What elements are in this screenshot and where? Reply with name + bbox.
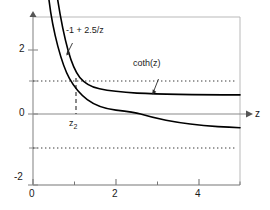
x-tick-label-0: 0 xyxy=(29,188,35,199)
plot-frame xyxy=(33,17,240,185)
y-tick-label-0: 0 xyxy=(19,107,25,118)
x-major-ticks xyxy=(33,179,199,185)
y-axis-arrowhead xyxy=(30,11,37,17)
x-axis-label: z xyxy=(255,108,260,119)
curve-coth xyxy=(57,0,240,95)
x-axis-arrowhead xyxy=(246,111,253,118)
chart-plot-area xyxy=(0,0,270,210)
figure-canvas: 2 0 -2 0 2 4 z -1 + 2.5/z coth(z) z2 xyxy=(0,0,270,210)
y-tick-label-2: 2 xyxy=(19,43,25,54)
annot-rational-label: -1 + 2.5/z xyxy=(66,25,104,35)
annot-coth-label: coth(z) xyxy=(133,58,161,68)
intersection-label: z2 xyxy=(69,118,77,130)
x-tick-label-4: 4 xyxy=(195,188,201,199)
intersection-label-subscript: 2 xyxy=(74,123,78,130)
y-tick-label-neg2: -2 xyxy=(14,171,23,182)
x-tick-label-2: 2 xyxy=(112,188,118,199)
